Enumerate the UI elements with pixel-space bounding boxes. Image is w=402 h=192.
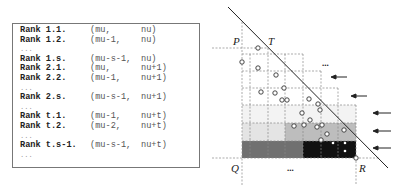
rank-label: Rank t.s-1. xyxy=(20,141,90,151)
label-r: R xyxy=(358,162,366,174)
arrow-left-icon xyxy=(373,146,391,150)
rank-nu: nu+1) xyxy=(141,92,167,102)
rank-nu: nu+t) xyxy=(141,111,167,121)
rank-nu: nu+t) xyxy=(141,140,167,150)
rank-mu: (mu-s-1, xyxy=(90,141,141,151)
rank-nu: nu) xyxy=(141,54,156,64)
rank-mu: (mu-2, xyxy=(90,122,141,132)
arrow-left-icon xyxy=(373,129,391,133)
rank-label: Rank 2.s. xyxy=(20,93,90,103)
rank-nu: nu+1) xyxy=(141,73,167,83)
rank-nu: nu+t) xyxy=(141,121,167,131)
rank-label: Rank t.2. xyxy=(20,122,90,132)
rank-line: Rank t.s-1.(mu-s-1,nu+t) xyxy=(20,141,199,151)
rank-nu: nu+1) xyxy=(141,63,167,73)
ellipsis: ... xyxy=(20,151,199,161)
grid-diagram: P T Q R ... ... xyxy=(200,0,402,192)
rank-nu: nu) xyxy=(141,35,156,45)
arrow-left-icon xyxy=(373,111,391,115)
arrow-left-icon xyxy=(331,75,347,79)
ellipsis-top: ... xyxy=(322,58,329,68)
rank-nu: nu) xyxy=(141,25,156,35)
label-t: T xyxy=(268,35,275,47)
rank-mu: (mu-1, xyxy=(90,74,141,84)
rank-line: Rank 1.2.(mu-1,nu) xyxy=(20,36,199,46)
rank-line: Rank 2.2.(mu-1,nu+1) xyxy=(20,74,199,84)
rank-label: Rank 2.2. xyxy=(20,74,90,84)
shaded-cells xyxy=(242,105,356,158)
arrow-left-icon xyxy=(351,94,367,98)
ellipsis-bottom: ... xyxy=(287,163,294,173)
rank-mu: (mu-s-1, xyxy=(90,93,141,103)
label-q: Q xyxy=(231,162,239,174)
rank-listing-box: Rank 1.1.(mu,nu) Rank 1.2.(mu-1,nu) ... … xyxy=(12,23,200,168)
rank-line: Rank t.2.(mu-2,nu+t) xyxy=(20,122,199,132)
rank-line: Rank 2.s.(mu-s-1,nu+1) xyxy=(20,93,199,103)
label-p: P xyxy=(232,35,240,47)
rank-mu: (mu-1, xyxy=(90,36,141,46)
rank-label: Rank 1.2. xyxy=(20,36,90,46)
